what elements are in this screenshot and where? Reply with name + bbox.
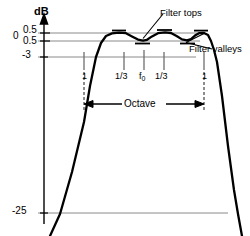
annotation-filter-tops: Filter tops [160,8,202,18]
x-tick-label-f0-subscript: 0 [142,75,146,82]
octave-span-label: Octave [124,99,156,109]
y-axis [40,14,47,224]
x-tick-label-1-right: 1 [202,72,207,81]
x-tick-marks [84,50,204,70]
gridline-group [38,33,228,213]
y-tick-label-minus-0p5: 0.5 [23,36,37,46]
filter-response-curve [50,32,242,236]
x-tick-label-f0: f0 [139,72,145,82]
filter-response-plot [0,0,250,236]
octave-arrowhead-right [195,101,204,108]
y-tick-label-minus-3: -3 [22,50,31,60]
y-tick-label-minus-25: -25 [12,206,26,216]
y-axis-title: dB [34,6,49,17]
x-tick-label-third-right: 1/3 [155,72,168,81]
filter-top-markers [112,30,208,31]
y-tick-label-0: 0 [13,31,19,41]
x-tick-label-third-left: 1/3 [115,72,128,81]
filter-response-figure: dB 0 0.5 0.5 -3 -25 1 1/3 f0 1/3 1 Octav… [0,0,250,236]
y-tick-label-plus-0p5: 0.5 [23,25,37,35]
y-tick-marks [40,33,50,213]
x-tick-label-1-left: 1 [82,72,87,81]
annotation-filter-valleys: Filter valleys [189,44,242,54]
